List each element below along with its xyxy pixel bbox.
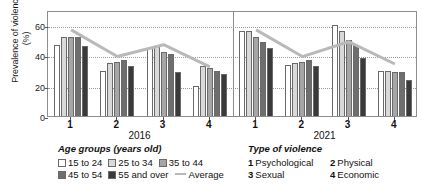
legend-item-label: 25 to 34: [118, 157, 152, 169]
legend-swatch-icon: [58, 171, 66, 179]
legend-item-label: 35 to 44: [169, 157, 203, 169]
legend-type-number: 1: [248, 157, 253, 169]
panel-separator: [233, 12, 234, 116]
x-axis-tick-label: 1: [60, 119, 80, 130]
legend-item-age-5: 55 and over: [108, 169, 168, 181]
x-axis-tick-label: 2: [291, 119, 311, 130]
y-axis-tick-mark: [45, 118, 48, 119]
legend-swatch-icon: [159, 159, 167, 167]
legend-age-row-1: 15 to 2425 to 3435 to 44: [58, 157, 224, 169]
legend-item-type-1: 1Psychological: [248, 157, 330, 169]
x-axis-tick-mark: [348, 117, 349, 120]
x-axis-tick-label: 4: [199, 119, 219, 130]
legend-item-label: 55 and over: [118, 169, 168, 181]
legend-type-of-violence: Type of violence 1Psychological2Physical…: [248, 143, 379, 181]
legend-item-age-1: 15 to 24: [58, 157, 102, 169]
legend-age-row-2: 45 to 5455 and overAverage: [58, 169, 224, 181]
legend-item-type-2: 2Physical: [330, 157, 373, 169]
x-axis-tick-mark: [255, 117, 256, 120]
legend-line-icon: [175, 173, 186, 175]
x-axis-tick-mark: [394, 117, 395, 120]
y-axis-tick-label: 40: [35, 53, 45, 62]
y-axis-title: Prevalence of violence (%): [10, 0, 31, 89]
x-axis-tick-label: 3: [153, 119, 173, 130]
chart-panel-2016: [48, 12, 233, 116]
legend-swatch-icon: [108, 171, 116, 179]
plot-area: 0204060: [47, 11, 417, 117]
x-axis-tick-label: 2: [106, 119, 126, 130]
x-axis-tick-label: 4: [384, 119, 404, 130]
legend-type-title: Type of violence: [248, 143, 379, 155]
legend-item-type-4: 4Economic: [330, 169, 379, 181]
legend-item-average: Average: [175, 169, 224, 181]
legend-type-rows: 1Psychological2Physical3Sexual4Economic: [248, 157, 379, 181]
x-axis-tick-label: 1: [245, 119, 265, 130]
legend-type-label: Economic: [337, 169, 379, 181]
legend-age-groups: Age groups (years old) 15 to 2425 to 343…: [58, 143, 224, 181]
x-axis-tick-mark: [163, 117, 164, 120]
y-axis-tick-label: 20: [35, 83, 45, 92]
legend-type-label: Sexual: [255, 169, 284, 181]
x-axis-tick-mark: [116, 117, 117, 120]
x-axis-tick-mark: [301, 117, 302, 120]
legend-item-age-3: 35 to 44: [159, 157, 203, 169]
legend-type-label: Physical: [337, 157, 372, 169]
legend-type-label: Psychological: [255, 157, 313, 169]
legend-type-number: 2: [330, 157, 335, 169]
legend-type-row-1: 1Psychological2Physical: [248, 157, 379, 169]
panel-year-label: 2016: [47, 130, 232, 141]
legend-item-label: Average: [189, 169, 224, 181]
chart-figure: Prevalence of violence (%) 0204060 12342…: [0, 0, 427, 194]
legend-item-label: 45 to 54: [68, 169, 102, 181]
average-line: [48, 12, 233, 116]
panel-year-label: 2021: [232, 130, 417, 141]
x-axis-tick-label: 3: [338, 119, 358, 130]
legend-type-row-2: 3Sexual4Economic: [248, 169, 379, 181]
legend-type-number: 3: [248, 169, 253, 181]
chart-panel-2021: [233, 12, 418, 116]
legend-swatch-icon: [58, 159, 66, 167]
legend-item-label: 15 to 24: [68, 157, 102, 169]
y-axis-tick-label: 60: [35, 23, 45, 32]
x-axis-tick-mark: [70, 117, 71, 120]
legend-item-type-3: 3Sexual: [248, 169, 330, 181]
legend-age-title: Age groups (years old): [58, 143, 224, 155]
average-line: [233, 12, 418, 116]
legend-item-age-4: 45 to 54: [58, 169, 102, 181]
legend-item-age-2: 25 to 34: [108, 157, 152, 169]
legend-type-number: 4: [330, 169, 335, 181]
x-axis-tick-mark: [209, 117, 210, 120]
legend-swatch-icon: [108, 159, 116, 167]
